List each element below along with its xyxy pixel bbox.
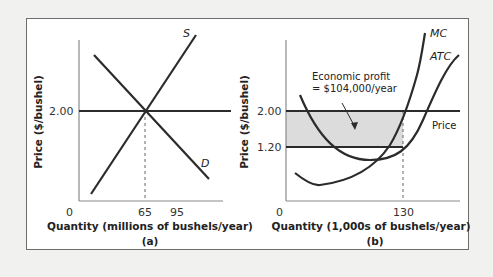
x-tick-95: 95 xyxy=(170,206,184,219)
supply-curve xyxy=(91,35,196,194)
x-axis-label-b: Quantity (1,000s of bushels/year) xyxy=(271,220,470,232)
demand-label: D xyxy=(201,157,209,170)
x-tick-0-b: 0 xyxy=(276,206,283,219)
profit-annotation-line1: Economic profit xyxy=(312,71,390,82)
panel-caption-a: (a) xyxy=(142,235,159,247)
profit-annotation-line2: = $104,000/year xyxy=(312,83,398,94)
y-tick-2-00-a: 2.00 xyxy=(49,105,74,118)
atc-label: ATC xyxy=(429,50,451,63)
price-label: Price xyxy=(432,120,456,131)
y-tick-2-00-b: 2.00 xyxy=(257,105,282,118)
x-tick-130: 130 xyxy=(393,206,414,219)
x-tick-0-a: 0 xyxy=(66,206,73,219)
panel-caption-b: (b) xyxy=(366,235,383,247)
supply-label: S xyxy=(183,27,190,40)
y-axis-label-b: Price ($/bushel) xyxy=(238,75,250,169)
demand-curve xyxy=(94,55,209,179)
mc-label: MC xyxy=(430,27,447,40)
panel-b: MC ATC Price Economic profit = $104,000/… xyxy=(238,27,471,247)
y-axis-label-a: Price ($/bushel) xyxy=(32,75,44,169)
mc-curve xyxy=(295,33,425,185)
economics-figure: S D 2.00 0 65 95 Quantity (millions of b… xyxy=(0,0,493,277)
y-tick-1-20: 1.20 xyxy=(257,141,282,154)
x-axis-label-a: Quantity (millions of bushels/year) xyxy=(47,220,253,232)
x-tick-65: 65 xyxy=(138,206,152,219)
panel-a: S D 2.00 0 65 95 Quantity (millions of b… xyxy=(32,27,253,247)
economic-profit-area xyxy=(286,111,403,147)
